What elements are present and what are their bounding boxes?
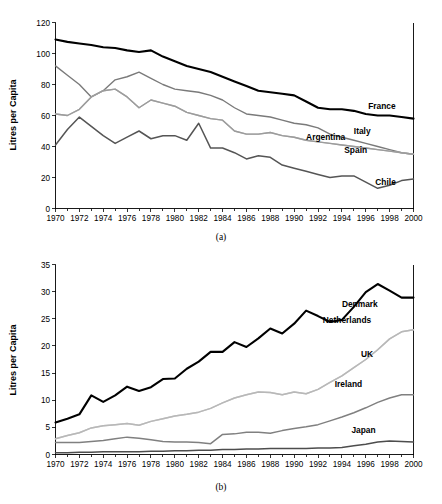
series-label-spain: Spain [344,145,367,155]
series-label-ireland: Ireland [335,379,362,389]
y-axis-tick-label: 100 [36,50,50,59]
x-axis-tick-label: 1992 [309,214,328,223]
x-axis-tick-label: 1990 [285,460,304,469]
two-panel-line-chart-figure: 0204060801001201970197219741976197819801… [0,0,442,504]
y-axis-tick-label: 35 [41,261,51,270]
y-axis-tick-label: 20 [41,174,51,183]
x-axis-tick-label: 1982 [190,214,209,223]
x-axis-tick-label: 1996 [357,214,376,223]
x-axis-tick-label: 1974 [94,460,113,469]
x-axis-tick-label: 1986 [237,460,256,469]
chart-panel-b: 0510152025303519701972197419761978198019… [0,250,442,504]
chart-a-canvas: 0204060801001201970197219741976197819801… [0,0,442,250]
y-axis-title: Litres per Capita [8,324,18,396]
x-axis-tick-label: 1986 [237,214,256,223]
x-axis-tick-label: 2000 [404,460,423,469]
y-axis-tick-label: 20 [41,342,51,351]
series-label-netherlands: Netherlands [323,315,372,325]
x-axis-tick-label: 1984 [213,214,232,223]
y-axis-tick-label: 15 [41,369,51,378]
x-axis-tick-label: 1978 [142,460,161,469]
series-label-japan: Japan [351,425,375,435]
x-axis-tick-label: 1984 [213,460,232,469]
x-axis-tick-label: 1980 [166,214,185,223]
series-label-uk: UK [361,349,373,359]
x-axis-tick-label: 1990 [285,214,304,223]
x-axis-tick-label: 1976 [118,460,137,469]
y-axis-tick-label: 0 [45,205,50,214]
y-axis-tick-label: 0 [45,451,50,460]
series-label-france: France [368,101,396,111]
y-axis-tick-label: 80 [41,81,51,90]
y-axis-tick-label: 10 [41,396,51,405]
y-axis-tick-label: 5 [45,423,50,432]
y-axis-tick-label: 30 [41,288,51,297]
x-axis-tick-label: 1970 [46,460,65,469]
y-axis-title: Litres per Capita [8,79,18,151]
series-line-japan [56,441,414,453]
series-line-ireland [56,395,414,444]
subfigure-caption-a: (a) [216,232,227,243]
series-label-denmark: Denmark [342,299,378,309]
subfigure-caption-b: (b) [215,482,226,493]
x-axis-tick-label: 1994 [333,460,352,469]
x-axis-tick-label: 2000 [404,214,423,223]
x-axis-tick-label: 1992 [309,460,328,469]
x-axis-tick-label: 1982 [190,460,209,469]
x-axis-tick-label: 1980 [166,460,185,469]
x-axis-tick-label: 1970 [46,214,65,223]
x-axis-tick-label: 1998 [381,460,400,469]
series-label-italy: Italy [354,126,371,136]
y-axis-tick-label: 25 [41,315,51,324]
x-axis-tick-label: 1994 [333,214,352,223]
y-axis-tick-label: 120 [36,19,50,28]
series-line-france [56,40,414,119]
x-axis-tick-label: 1972 [70,460,89,469]
series-label-chile: Chile [375,177,396,187]
series-label-argentina: Argentina [306,132,345,142]
x-axis-tick-label: 1972 [70,214,89,223]
y-axis-tick-label: 60 [41,112,51,121]
series-line-italy [56,66,414,154]
x-axis-tick-label: 1988 [261,460,280,469]
y-axis-tick-label: 40 [41,143,51,152]
x-axis-tick-label: 1998 [381,214,400,223]
x-axis-tick-label: 1978 [142,214,161,223]
chart-panel-a: 0204060801001201970197219741976197819801… [0,0,442,250]
chart-b-canvas: 0510152025303519701972197419761978198019… [0,250,442,504]
x-axis-tick-label: 1974 [94,214,113,223]
x-axis-tick-label: 1976 [118,214,137,223]
x-axis-tick-label: 1996 [357,460,376,469]
x-axis-tick-label: 1988 [261,214,280,223]
